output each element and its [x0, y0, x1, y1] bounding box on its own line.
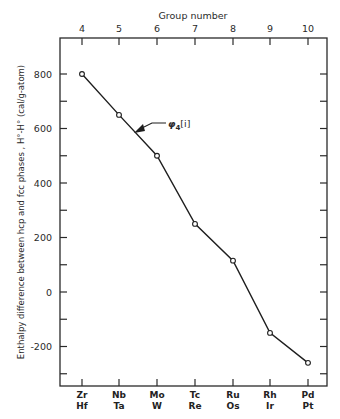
top-tick-label: 5: [116, 23, 122, 34]
data-point-marker: [155, 153, 160, 158]
data-point-marker: [306, 360, 311, 365]
y-tick-label: -200: [30, 341, 52, 352]
y-axis-label: Enthalpy difference between hcp and fcc …: [16, 65, 26, 359]
category-label-top: Nb: [112, 390, 127, 400]
top-axis-ticks: 45678910: [79, 23, 314, 45]
category-label-bottom: Pt: [303, 401, 315, 411]
category-label-top: Ru: [226, 390, 239, 400]
category-label-top: Zr: [77, 390, 89, 400]
top-tick-label: 8: [230, 23, 236, 34]
category-label-top: Tc: [190, 390, 200, 400]
top-tick-label: 9: [267, 23, 273, 34]
category-label-bottom: Re: [188, 401, 201, 411]
arrowhead-icon: [134, 124, 145, 133]
data-point-marker: [80, 72, 85, 77]
top-tick-label: 7: [192, 23, 198, 34]
category-label-bottom: W: [152, 401, 162, 411]
data-point-marker: [193, 221, 198, 226]
top-tick-label: 10: [302, 23, 314, 34]
top-tick-label: 6: [154, 23, 160, 34]
series-markers: [80, 72, 311, 366]
y-tick-label: 0: [46, 287, 52, 298]
series-annotation-label: φ4[i]: [168, 118, 190, 132]
data-point-marker: [268, 330, 273, 335]
bottom-axis-ticks: ZrHfNbTaMoWTcReRuOsRhIrPdPt: [76, 379, 314, 411]
y-tick-label: 800: [34, 69, 52, 80]
category-label-top: Mo: [149, 390, 164, 400]
y-tick-label: 400: [34, 178, 52, 189]
annotation-arrow: [134, 123, 166, 133]
category-label-top: Rh: [263, 390, 276, 400]
category-label-bottom: Ta: [113, 401, 124, 411]
category-label-bottom: Os: [226, 401, 239, 411]
top-axis-title: Group number: [158, 10, 227, 21]
top-tick-label: 4: [79, 23, 85, 34]
plot-frame: [60, 38, 327, 386]
y-tick-label: 200: [34, 232, 52, 243]
category-label-bottom: Hf: [76, 401, 88, 411]
category-label-top: Pd: [301, 390, 314, 400]
data-point-marker: [231, 258, 236, 263]
category-label-bottom: Ir: [266, 401, 274, 411]
chart: Group number 45678910 ZrHfNbTaMoWTcReRuO…: [0, 0, 340, 419]
y-axis-ticks: -2000200400600800: [30, 69, 327, 374]
series-line: [82, 74, 308, 363]
data-point-marker: [117, 112, 122, 117]
y-tick-label: 600: [34, 123, 52, 134]
